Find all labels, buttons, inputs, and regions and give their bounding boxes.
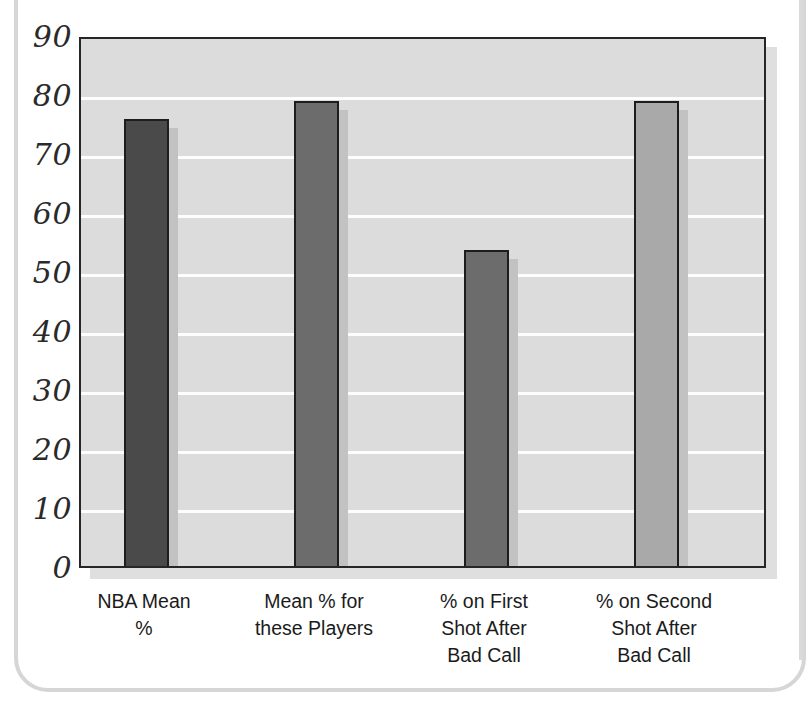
x-axis-tick-label: % on Second Shot After Bad Call [569,588,739,669]
plot-area [79,37,766,568]
bar [124,119,169,568]
y-axis-tick-label: 10 [0,494,72,524]
y-axis-tick-label: 0 [0,553,72,583]
y-axis-tick-label: 80 [0,81,72,111]
y-axis-tick-label: 70 [0,140,72,170]
y-axis-tick-label: 90 [0,22,72,52]
y-axis-tick-label: 30 [0,376,72,406]
gridline [81,97,764,100]
y-axis-tick-label: 20 [0,435,72,465]
bar [634,101,679,568]
bar [464,250,509,568]
x-axis-tick-label: NBA Mean % [59,588,229,642]
x-axis: NBA Mean %Mean % for these Players% on F… [79,588,766,708]
y-axis-tick-label: 50 [0,258,72,288]
bar [294,101,339,568]
y-axis-tick-label: 60 [0,199,72,229]
x-axis-tick-label: Mean % for these Players [229,588,399,642]
x-axis-tick-label: % on First Shot After Bad Call [399,588,569,669]
bar-chart: 9080706050403020100 NBA Mean %Mean % for… [0,0,808,721]
y-axis-tick-label: 40 [0,317,72,347]
